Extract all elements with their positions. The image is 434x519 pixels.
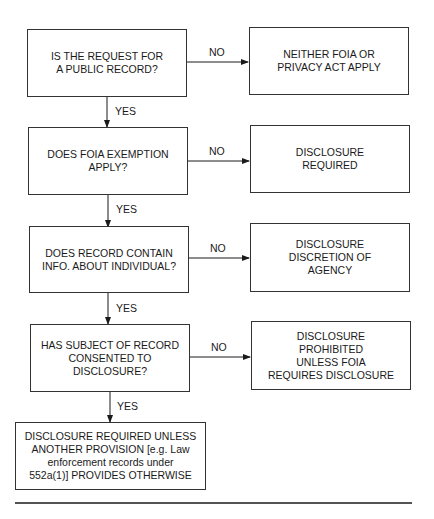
outcome-disclosure-prohibited: DISCLOSURE PROHIBITED UNLESS FOIA REQUIR… bbox=[251, 321, 411, 390]
outcome-text: DISCLOSURE DISCRETION OF AGENCY bbox=[289, 238, 371, 277]
decision-public-record: IS THE REQUEST FOR A PUBLIC RECORD? bbox=[27, 29, 187, 97]
outcome-no-foia-privacy: NEITHER FOIA OR PRIVACY ACT APPLY bbox=[249, 27, 409, 95]
outcome-text: DISCLOSURE PROHIBITED UNLESS FOIA REQUIR… bbox=[268, 330, 394, 382]
outcome-text: NEITHER FOIA OR PRIVACY ACT APPLY bbox=[277, 48, 381, 74]
decision-text: IS THE REQUEST FOR A PUBLIC RECORD? bbox=[51, 50, 163, 76]
no-label: NO bbox=[210, 242, 226, 254]
decision-text: DOES FOIA EXEMPTION APPLY? bbox=[47, 148, 168, 174]
outcome-agency-discretion: DISCLOSURE DISCRETION OF AGENCY bbox=[250, 223, 410, 292]
decision-consent: HAS SUBJECT OF RECORD CONSENTED TO DISCL… bbox=[30, 324, 190, 392]
yes-label: YES bbox=[115, 105, 136, 117]
yes-label: YES bbox=[116, 302, 137, 314]
decision-info-individual: DOES RECORD CONTAIN INFO. ABOUT INDIVIDU… bbox=[29, 226, 189, 293]
decision-text: HAS SUBJECT OF RECORD CONSENTED TO DISCL… bbox=[41, 339, 179, 378]
no-label: NO bbox=[209, 46, 225, 58]
yes-label: YES bbox=[117, 400, 138, 412]
decision-foia-exemption: DOES FOIA EXEMPTION APPLY? bbox=[28, 127, 188, 195]
outcome-text: DISCLOSURE REQUIRED bbox=[296, 146, 364, 172]
yes-label: YES bbox=[116, 203, 137, 215]
final-outcome: DISCLOSURE REQUIRED UNLESS ANOTHER PROVI… bbox=[15, 422, 206, 490]
decision-text: DOES RECORD CONTAIN INFO. ABOUT INDIVIDU… bbox=[42, 247, 176, 273]
no-label: NO bbox=[211, 341, 227, 353]
no-label: NO bbox=[209, 145, 225, 157]
outcome-disclosure-required: DISCLOSURE REQUIRED bbox=[250, 125, 410, 193]
outcome-text: DISCLOSURE REQUIRED UNLESS ANOTHER PROVI… bbox=[25, 430, 197, 482]
